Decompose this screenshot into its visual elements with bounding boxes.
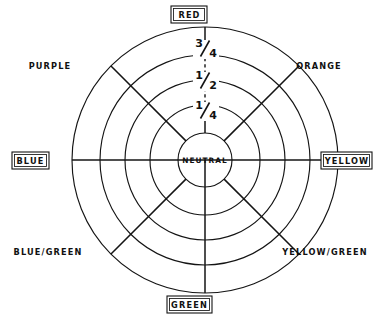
- hue-label-text: GREEN: [171, 300, 208, 310]
- fraction-denominator: 4: [209, 47, 217, 60]
- spoke-diagonal-orange: [224, 66, 299, 141]
- color-wheel-diagram: NEUTRAL 3 4 1 2 1 4 RED: [0, 0, 376, 319]
- center-neutral-label: NEUTRAL: [182, 156, 227, 165]
- spoke-diagonal-purple: [111, 66, 186, 141]
- hue-label-red: RED: [171, 6, 207, 23]
- hue-label-purple: PURPLE: [29, 61, 72, 71]
- saturation-label-three-quarters: 3 4: [193, 37, 219, 60]
- hue-label-blue-green: BLUE/GREEN: [14, 247, 83, 257]
- color-wheel-canvas: NEUTRAL 3 4 1 2 1 4 RED: [0, 0, 376, 319]
- spoke-diagonal-blue-green: [111, 179, 186, 254]
- hue-label-text: RED: [178, 10, 200, 20]
- spoke-diagonal-yellow-green: [224, 179, 299, 254]
- saturation-label-one-half: 1 2: [193, 69, 219, 92]
- hue-label-yellow-green: YELLOW/GREEN: [281, 247, 368, 257]
- hue-label-text: BLUE: [16, 156, 44, 166]
- fraction-numerator: 1: [195, 69, 203, 82]
- hue-label-text: YELLOW/GREEN: [281, 247, 368, 257]
- hue-label-blue: BLUE: [12, 152, 49, 169]
- hue-label-text: YELLOW: [324, 156, 370, 166]
- fraction-numerator: 3: [195, 37, 203, 50]
- fraction-denominator: 4: [209, 109, 217, 122]
- hue-label-orange: ORANGE: [296, 61, 342, 71]
- saturation-label-one-quarter: 1 4: [193, 99, 219, 122]
- hue-label-green: GREEN: [167, 296, 212, 313]
- hue-label-yellow: YELLOW: [321, 152, 372, 169]
- hue-label-text: BLUE/GREEN: [14, 247, 83, 257]
- fraction-numerator: 1: [195, 99, 203, 112]
- fraction-denominator: 2: [209, 79, 217, 92]
